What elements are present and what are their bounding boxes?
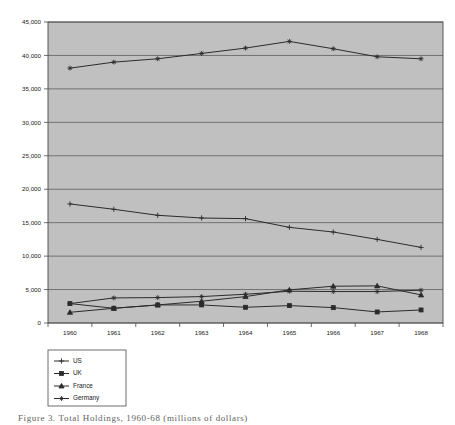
y-tick-label: 30,000 — [22, 119, 41, 126]
y-tick-label: 15,000 — [22, 219, 41, 226]
x-axis-ticks — [48, 323, 443, 327]
y-axis-ticks — [44, 22, 48, 323]
y-tick-label: 0 — [38, 319, 42, 326]
x-tick-label: 1964 — [239, 329, 253, 336]
y-tick-label: 20,000 — [22, 185, 41, 192]
y-tick-label: 10,000 — [22, 252, 41, 259]
chart-legend: USUKFranceGermany — [48, 350, 126, 406]
x-tick-label: 1963 — [195, 329, 209, 336]
data-point — [60, 372, 64, 376]
x-axis-labels: 196019611962196319641965196619671968 — [63, 329, 428, 336]
data-point — [244, 305, 248, 309]
legend-label: Germany — [73, 394, 100, 402]
figure-container: 05,00010,00015,00020,00025,00030,00035,0… — [0, 0, 455, 425]
x-tick-label: 1961 — [107, 329, 121, 336]
x-tick-label: 1967 — [370, 329, 384, 336]
x-tick-label: 1960 — [63, 329, 77, 336]
y-tick-label: 45,000 — [22, 18, 41, 25]
y-tick-label: 25,000 — [22, 152, 41, 159]
y-tick-label: 5,000 — [26, 286, 42, 293]
legend-label: UK — [73, 369, 83, 376]
x-tick-label: 1962 — [151, 329, 165, 336]
x-tick-label: 1965 — [283, 329, 297, 336]
data-point — [419, 308, 423, 312]
data-point — [287, 304, 291, 308]
legend-label: France — [73, 382, 93, 389]
line-chart: 05,00010,00015,00020,00025,00030,00035,0… — [0, 0, 455, 425]
y-axis-labels: 05,00010,00015,00020,00025,00030,00035,0… — [22, 18, 41, 326]
plot-background — [48, 22, 443, 323]
figure-caption: Figure 3. Total Holdings, 1960-68 (milli… — [18, 413, 438, 424]
legend-label: US — [73, 357, 82, 364]
y-tick-label: 40,000 — [22, 52, 41, 59]
data-point — [331, 306, 335, 310]
y-tick-label: 35,000 — [22, 85, 41, 92]
x-tick-label: 1968 — [414, 329, 428, 336]
data-point — [375, 310, 379, 314]
x-tick-label: 1966 — [326, 329, 340, 336]
